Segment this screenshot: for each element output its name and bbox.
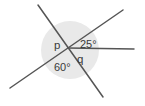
diagram-canvas: p25°q60°: [0, 0, 145, 106]
angle-label-p: p: [54, 39, 60, 51]
angle-label-q: q: [77, 53, 83, 65]
angle-diagram-figure: p25°q60°: [0, 0, 145, 106]
ray-horizontal: [68, 48, 134, 49]
angle-label-60: 60°: [54, 61, 71, 73]
angle-label-25: 25°: [80, 38, 97, 50]
